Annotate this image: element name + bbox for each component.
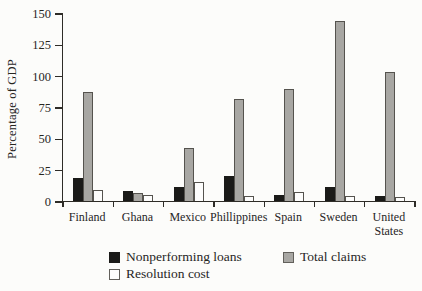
- bar-resolution-cost-sweden: [345, 196, 355, 201]
- y-tick-label-100: 100: [11, 70, 51, 84]
- bar-total-claims-united-states: [385, 72, 395, 201]
- bar-total-claims-phillippines: [234, 99, 244, 201]
- bar-total-claims-finland: [83, 92, 93, 201]
- y-tick-label-150: 150: [11, 7, 51, 21]
- y-tick-25: [55, 170, 63, 171]
- y-tick-150: [55, 13, 63, 14]
- y-tick-50: [55, 139, 63, 140]
- bar-nonperforming-loans-phillippines: [224, 176, 234, 201]
- x-label-finland: Finland: [59, 211, 115, 225]
- legend-swatch-white-icon: [109, 269, 120, 280]
- x-tick-0: [62, 201, 63, 207]
- bar-total-claims-sweden: [335, 21, 345, 201]
- bar-total-claims-mexico: [184, 148, 194, 201]
- legend-item-total-claims: Total claims: [283, 249, 366, 265]
- x-tick-1: [113, 201, 114, 207]
- bar-resolution-cost-mexico: [194, 182, 204, 201]
- x-label-phillippines: Phillippines: [210, 211, 266, 225]
- legend-swatch-gray-icon: [283, 252, 294, 263]
- bar-resolution-cost-spain: [294, 192, 304, 201]
- bar-total-claims-ghana: [133, 193, 143, 201]
- x-tick-4: [264, 201, 265, 207]
- y-tick-75: [55, 107, 63, 108]
- legend-label-total-claims: Total claims: [300, 249, 366, 265]
- y-tick-125: [55, 45, 63, 46]
- bar-resolution-cost-united-states: [395, 197, 405, 201]
- bar-nonperforming-loans-ghana: [123, 191, 133, 201]
- y-tick-label-125: 125: [11, 38, 51, 52]
- x-tick-5: [314, 201, 315, 207]
- x-label-united-states: United States: [361, 211, 417, 238]
- bar-nonperforming-loans-sweden: [325, 187, 335, 201]
- bar-resolution-cost-ghana: [143, 195, 153, 201]
- y-tick-label-25: 25: [11, 164, 51, 178]
- y-tick-label-0: 0: [11, 195, 51, 209]
- legend-item-resolution-cost: Resolution cost: [109, 266, 210, 282]
- x-label-ghana: Ghana: [109, 211, 165, 225]
- bar-chart-figure: Percentage of GDP 0255075100125150 Nonpe…: [0, 0, 422, 291]
- bar-resolution-cost-finland: [93, 190, 103, 201]
- legend-label-nonperforming-loans: Nonperforming loans: [126, 249, 242, 265]
- x-tick-7: [414, 201, 415, 207]
- legend-label-resolution-cost: Resolution cost: [126, 266, 210, 282]
- plot-area: 0255075100125150: [62, 14, 414, 202]
- bar-resolution-cost-phillippines: [244, 196, 254, 201]
- bar-total-claims-spain: [284, 89, 294, 201]
- legend-swatch-black-icon: [109, 252, 120, 263]
- legend-item-nonperforming-loans: Nonperforming loans: [109, 249, 242, 265]
- x-tick-3: [213, 201, 214, 207]
- x-label-sweden: Sweden: [311, 211, 367, 225]
- bar-nonperforming-loans-mexico: [174, 187, 184, 201]
- bar-nonperforming-loans-spain: [274, 195, 284, 201]
- y-tick-label-75: 75: [11, 101, 51, 115]
- y-tick-100: [55, 76, 63, 77]
- bar-nonperforming-loans-finland: [73, 178, 83, 201]
- x-tick-6: [364, 201, 365, 207]
- y-tick-label-50: 50: [11, 132, 51, 146]
- x-tick-2: [163, 201, 164, 207]
- x-label-spain: Spain: [260, 211, 316, 225]
- bar-nonperforming-loans-united-states: [375, 196, 385, 201]
- x-label-mexico: Mexico: [160, 211, 216, 225]
